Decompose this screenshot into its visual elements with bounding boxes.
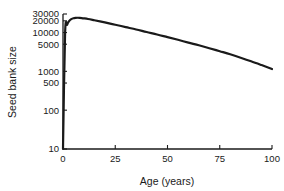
seed-bank-decay-curve <box>63 18 272 149</box>
y-axis-title: Seed bank size <box>6 46 18 118</box>
y-tick-label: 1000 <box>38 66 59 77</box>
x-axis-title: Age (years) <box>140 175 194 187</box>
y-axis-tick-labels: 1010050010005000100002000030000 <box>33 8 59 154</box>
y-tick-label: 500 <box>43 77 59 88</box>
y-tick-label: 10 <box>48 143 59 154</box>
seed-bank-size-chart: 1010050010005000100002000030000 02550751… <box>0 0 284 191</box>
y-tick-label: 100 <box>43 105 59 116</box>
y-tick-label: 30000 <box>33 8 59 19</box>
x-tick-label: 0 <box>60 153 65 164</box>
chart-plot-area: 1010050010005000100002000030000 02550751… <box>0 0 284 191</box>
x-tick-label: 50 <box>162 153 173 164</box>
x-tick-label: 75 <box>214 153 225 164</box>
y-tick-label: 5000 <box>38 39 59 50</box>
y-tick-label: 10000 <box>33 27 59 38</box>
x-tick-label: 25 <box>110 153 121 164</box>
x-tick-label: 100 <box>264 153 280 164</box>
x-axis-tick-labels: 0255075100 <box>60 153 280 164</box>
